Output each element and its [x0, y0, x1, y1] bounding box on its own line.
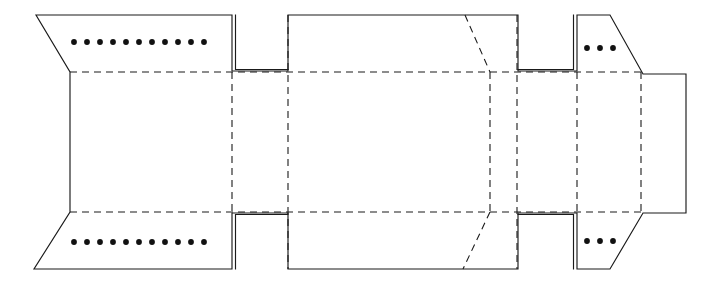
perforation-dot [84, 39, 90, 45]
perforation-dot [188, 39, 194, 45]
perforation-dot [110, 239, 116, 245]
perforation-row-top-right [584, 45, 616, 51]
perforation-dot [71, 239, 77, 245]
perforation-dot [188, 239, 194, 245]
perforation-dot [136, 239, 142, 245]
perforation-dot [123, 39, 129, 45]
perforation-dot [201, 39, 207, 45]
perforation-dot [597, 238, 603, 244]
perforation-dot [162, 239, 168, 245]
perforation-dot [597, 45, 603, 51]
perforation-dot [71, 39, 77, 45]
perforation-dot [97, 39, 103, 45]
perforation-dot [201, 239, 207, 245]
perforation-dot [584, 45, 590, 51]
perforation-dot [610, 238, 616, 244]
perforation-dot [84, 239, 90, 245]
perforation-row-bottom-right [584, 238, 616, 244]
perforation-dot [110, 39, 116, 45]
perforation-dot [149, 39, 155, 45]
dieline-canvas [0, 0, 718, 283]
perforation-dot [136, 39, 142, 45]
perforation-dot [123, 239, 129, 245]
perforation-dot [610, 45, 616, 51]
dieline-drawing [0, 0, 718, 283]
perforation-dot [162, 39, 168, 45]
perforation-dot [175, 239, 181, 245]
perforation-dot [584, 238, 590, 244]
perforation-dot [97, 239, 103, 245]
perforation-dot [149, 239, 155, 245]
perforation-dot [175, 39, 181, 45]
